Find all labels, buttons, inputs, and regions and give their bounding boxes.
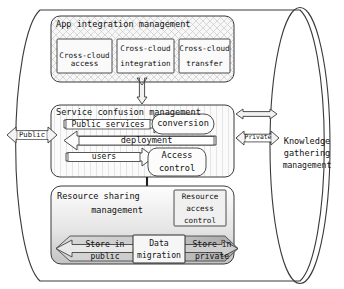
section-resource-sharing [51, 186, 238, 264]
box-cross-cloud-transfer [179, 39, 230, 73]
box-cross-cloud-integration [117, 39, 174, 73]
box-conversion [152, 114, 214, 134]
box-resource-access-control [174, 190, 226, 226]
box-access-control [148, 148, 206, 176]
section-app-integration [51, 16, 234, 82]
diagram-canvas: App integration management Cross-cloud a… [0, 0, 344, 289]
box-data-migration [133, 235, 185, 263]
diagram-svg [0, 0, 344, 289]
section-service-confusion [51, 105, 234, 177]
box-cross-cloud-access [57, 39, 112, 73]
